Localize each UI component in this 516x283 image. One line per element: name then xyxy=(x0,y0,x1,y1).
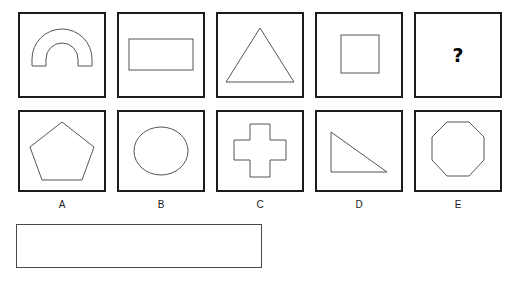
ellipse-shape-wrapper xyxy=(119,112,203,190)
square-icon xyxy=(317,14,401,96)
arch-shape-wrapper xyxy=(20,14,104,96)
question-mark-glyph: ? xyxy=(416,14,500,96)
option-label-d: D xyxy=(315,199,403,210)
circle-icon xyxy=(119,112,203,190)
octagon-shape-wrapper xyxy=(416,112,500,190)
option-label-b: B xyxy=(117,199,205,210)
sequence-cell-triangle[interactable] xyxy=(216,12,304,98)
triangle-shape-wrapper xyxy=(218,14,302,96)
sequence-cell-square[interactable] xyxy=(315,12,403,98)
arch-icon xyxy=(20,14,104,96)
sequence-cell-question[interactable]: ? xyxy=(414,12,502,98)
cross-shape-wrapper xyxy=(218,112,302,190)
cross-icon xyxy=(218,112,302,190)
option-cell-d[interactable] xyxy=(315,110,403,192)
right-triangle-shape-wrapper xyxy=(317,112,401,190)
rectangle-icon xyxy=(119,14,203,96)
square-shape-wrapper xyxy=(317,14,401,96)
answer-input-box[interactable] xyxy=(16,224,262,268)
pentagon-shape-wrapper xyxy=(20,112,104,190)
option-label-c: C xyxy=(216,199,304,210)
pentagon-icon xyxy=(20,112,104,190)
rectangle-shape-wrapper xyxy=(119,14,203,96)
option-label-a: A xyxy=(18,199,106,210)
option-cell-a[interactable] xyxy=(18,110,106,192)
octagon-icon xyxy=(416,112,500,190)
sequence-cell-arch[interactable] xyxy=(18,12,106,98)
option-cell-c[interactable] xyxy=(216,110,304,192)
puzzle-canvas: ? xyxy=(0,0,516,283)
option-label-e: E xyxy=(414,199,502,210)
triangle-icon xyxy=(218,14,302,96)
answer-input[interactable] xyxy=(17,225,261,267)
right-triangle-icon xyxy=(317,112,401,190)
option-cell-b[interactable] xyxy=(117,110,205,192)
sequence-cell-rectangle[interactable] xyxy=(117,12,205,98)
option-cell-e[interactable] xyxy=(414,110,502,192)
